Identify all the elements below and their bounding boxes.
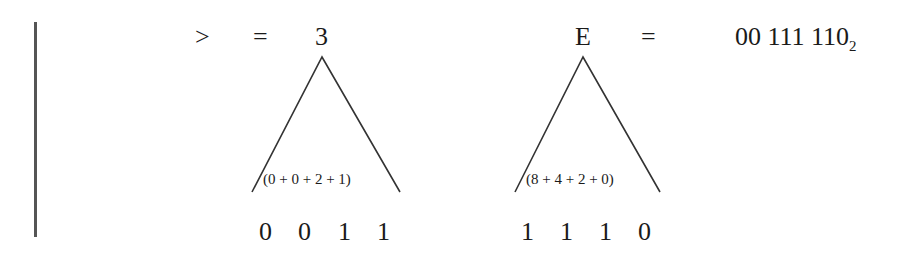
hex-digit-e: E	[575, 24, 591, 50]
right-bit-2: 1	[599, 219, 612, 245]
binary-base-subscript: 2	[849, 38, 857, 54]
greater-than-sign: >	[195, 24, 210, 50]
left-sum-expression: (0 + 0 + 2 + 1)	[263, 172, 351, 187]
equals-sign-2: =	[641, 24, 656, 50]
right-bit-0: 1	[521, 219, 534, 245]
right-bit-1: 1	[560, 219, 573, 245]
binary-digits: 00 111 110	[735, 22, 849, 51]
hex-digit-3: 3	[315, 24, 328, 50]
left-bit-0: 0	[259, 219, 272, 245]
left-bit-2: 1	[338, 219, 351, 245]
right-sum-expression: (8 + 4 + 2 + 0)	[526, 172, 614, 187]
right-bit-3: 0	[638, 219, 651, 245]
left-bit-1: 0	[298, 219, 311, 245]
binary-value: 00 111 1102	[735, 24, 857, 59]
left-bit-3: 1	[377, 219, 390, 245]
equals-sign-1: =	[253, 24, 268, 50]
